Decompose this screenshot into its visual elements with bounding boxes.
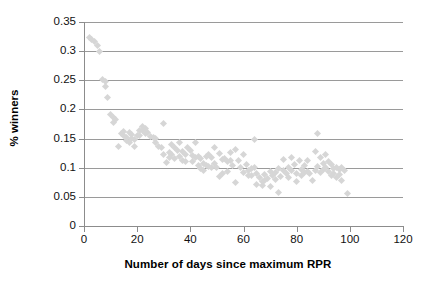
data-point bbox=[104, 94, 111, 101]
y-axis-tick-label: 0.3 bbox=[40, 45, 76, 56]
y-axis-line bbox=[84, 22, 85, 227]
x-axis-tick-label: 120 bbox=[383, 233, 423, 245]
gridline bbox=[84, 197, 403, 198]
data-point bbox=[275, 189, 282, 196]
data-point bbox=[285, 174, 292, 181]
x-axis-tick-label: 20 bbox=[117, 233, 157, 245]
y-axis-tick bbox=[79, 80, 84, 81]
x-axis-tick-label: 40 bbox=[170, 233, 210, 245]
gridline bbox=[84, 80, 403, 81]
y-axis-tick bbox=[79, 22, 84, 23]
gridline bbox=[84, 109, 403, 110]
data-point bbox=[267, 183, 274, 190]
data-point bbox=[213, 164, 220, 171]
x-axis-tick bbox=[350, 227, 351, 232]
data-point bbox=[160, 120, 167, 127]
data-point bbox=[338, 177, 345, 184]
data-point bbox=[115, 143, 122, 150]
x-axis-tick bbox=[190, 227, 191, 232]
data-point bbox=[176, 139, 183, 146]
y-axis-tick-label: 0 bbox=[40, 220, 76, 231]
data-point bbox=[314, 130, 321, 137]
y-axis-tick-label: 0.2 bbox=[40, 103, 76, 114]
y-axis-tick bbox=[79, 197, 84, 198]
data-point bbox=[131, 143, 138, 150]
data-point bbox=[232, 179, 239, 186]
y-axis-tick-label: 0.25 bbox=[40, 74, 76, 85]
x-axis-tick-label: 80 bbox=[277, 233, 317, 245]
data-point bbox=[211, 144, 218, 151]
x-axis-tick-label: 100 bbox=[330, 233, 370, 245]
data-point bbox=[251, 136, 258, 143]
x-axis-tick bbox=[403, 227, 404, 232]
data-point bbox=[309, 177, 316, 184]
x-axis-tick bbox=[137, 227, 138, 232]
data-point bbox=[312, 148, 319, 155]
y-axis-title: % winners bbox=[8, 73, 20, 163]
y-axis-tick-label: 0.1 bbox=[40, 162, 76, 173]
data-point bbox=[240, 151, 247, 158]
y-axis-tick-label: 0.35 bbox=[40, 16, 76, 27]
gridline bbox=[84, 22, 403, 23]
x-axis-tick bbox=[244, 227, 245, 232]
y-axis-tick bbox=[79, 109, 84, 110]
y-axis-tick bbox=[79, 51, 84, 52]
data-point bbox=[102, 83, 109, 90]
data-point bbox=[280, 156, 287, 163]
data-point bbox=[235, 157, 242, 164]
x-axis-title: Number of days since maximum RPR bbox=[50, 258, 406, 270]
data-point bbox=[181, 158, 188, 165]
x-axis-tick-label: 60 bbox=[224, 233, 264, 245]
data-point bbox=[192, 139, 199, 146]
y-axis-tick-label: 0.05 bbox=[40, 191, 76, 202]
x-axis-tick bbox=[297, 227, 298, 232]
data-point bbox=[293, 178, 300, 185]
gridline bbox=[84, 51, 403, 52]
y-axis-tick-label: 0.15 bbox=[40, 133, 76, 144]
x-axis-tick-label: 0 bbox=[64, 233, 104, 245]
x-axis-tick bbox=[84, 227, 85, 232]
scatter-chart: 00.050.10.150.20.250.30.35 Number of day… bbox=[0, 0, 436, 286]
y-axis-tick bbox=[79, 139, 84, 140]
plot-area bbox=[84, 22, 403, 226]
data-point bbox=[96, 48, 103, 55]
y-axis-tick bbox=[79, 168, 84, 169]
